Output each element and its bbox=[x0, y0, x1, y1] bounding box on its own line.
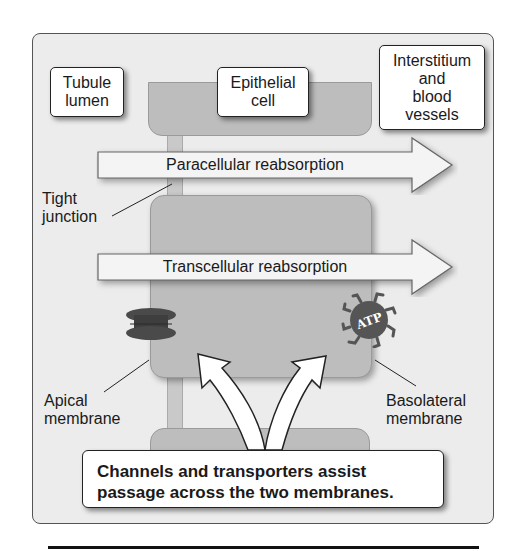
tight-junction-line-2: junction bbox=[42, 208, 97, 226]
caption-line-1: Channels and transporters assist bbox=[97, 461, 429, 482]
basolateral-membrane-line-2: membrane bbox=[386, 410, 466, 428]
caption-line-2: passage across the two membranes. bbox=[97, 482, 429, 503]
tight-junction-line-1: Tight bbox=[42, 190, 97, 208]
apical-membrane-label: Apical membrane bbox=[44, 392, 120, 428]
apical-membrane-line-2: membrane bbox=[44, 410, 120, 428]
apical-membrane-line-1: Apical bbox=[44, 392, 120, 410]
caption-box: Channels and transporters assist passage… bbox=[82, 450, 444, 508]
basolateral-membrane-label: Basolateral membrane bbox=[386, 392, 466, 428]
bottom-rule bbox=[48, 546, 479, 549]
basolateral-membrane-line-1: Basolateral bbox=[386, 392, 466, 410]
tight-junction-label: Tight junction bbox=[42, 190, 97, 226]
